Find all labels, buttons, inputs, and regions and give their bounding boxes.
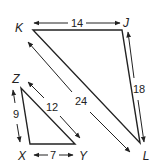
dimension-xy: 7 [34, 149, 73, 161]
dimension-kj: 14 [34, 17, 120, 29]
vertex-label-y: Y [79, 149, 88, 163]
vertex-label-k: K [15, 21, 24, 35]
vertex-label-j: J [122, 16, 130, 30]
dimension-zx: 9 [13, 90, 20, 142]
length-jl: 18 [133, 83, 145, 95]
dimension-zy: 12 [28, 82, 80, 138]
triangle-kjl [33, 30, 140, 143]
length-zx: 9 [13, 108, 19, 120]
length-xy: 7 [50, 149, 56, 161]
length-kl: 24 [75, 95, 87, 107]
vertex-label-x: X [17, 149, 27, 163]
length-kj: 14 [71, 17, 83, 29]
similar-triangles-diagram: 14 18 24 9 7 12 K J L Z X Y [0, 0, 155, 166]
length-zy: 12 [46, 101, 58, 113]
triangle-zxy [21, 88, 75, 144]
vertex-label-l: L [143, 149, 150, 163]
vertex-label-z: Z [11, 72, 20, 86]
